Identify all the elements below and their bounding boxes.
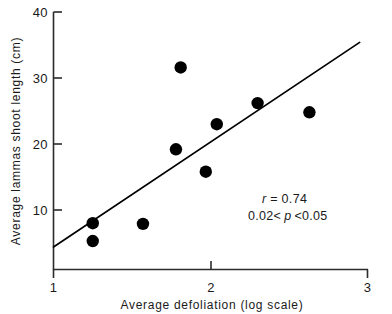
data-point — [87, 235, 99, 247]
statistics-annotation: r = 0.74 0.02<p<0.05 — [248, 192, 328, 223]
axis-lines — [53, 12, 368, 270]
p-upper-bound: <0.05 — [294, 209, 327, 223]
correlation-annotation: r = 0.74 — [262, 192, 307, 206]
data-point-group — [87, 61, 316, 247]
x-tick-label-1: 1 — [50, 280, 58, 295]
data-point — [170, 143, 182, 155]
y-axis-ticks — [54, 12, 63, 210]
data-point — [174, 61, 186, 73]
data-point — [303, 106, 315, 118]
x-axis-tick-labels: 1 2 3 — [50, 280, 372, 295]
r-value: = 0.74 — [266, 192, 307, 206]
y-tick-label-10: 10 — [33, 203, 48, 218]
y-axis-tick-labels: 40 30 20 10 — [33, 5, 48, 218]
data-point — [87, 217, 99, 229]
data-point — [200, 166, 212, 178]
data-point — [211, 118, 223, 130]
data-point — [137, 218, 149, 230]
p-value-annotation: 0.02<p<0.05 — [248, 209, 328, 223]
y-tick-label-40: 40 — [33, 5, 48, 20]
x-tick-label-2: 2 — [207, 280, 215, 295]
p-symbol: p — [283, 209, 291, 223]
y-tick-label-30: 30 — [33, 71, 48, 86]
plot-canvas: 40 30 20 10 1 2 3 Average defoliation (l… — [0, 0, 392, 314]
p-lower-bound: 0.02< — [248, 209, 281, 223]
scatter-plot-figure: 40 30 20 10 1 2 3 Average defoliation (l… — [0, 0, 392, 314]
x-axis-title: Average defoliation (log scale) — [121, 298, 304, 312]
data-point — [251, 97, 263, 109]
y-tick-label-20: 20 — [33, 137, 48, 152]
y-axis-title: Average lammas shoot length (cm) — [9, 37, 23, 245]
x-tick-label-3: 3 — [364, 280, 372, 295]
